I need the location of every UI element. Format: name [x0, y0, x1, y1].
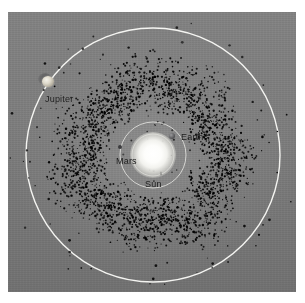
mars-planet-icon	[118, 145, 122, 149]
earth-planet-icon	[169, 133, 175, 139]
sun-label: Sun	[145, 179, 162, 189]
asteroid-belt-figure: Sun Earth Mars Jupiter	[0, 0, 305, 303]
diagram-panel: Sun Earth Mars Jupiter	[8, 12, 296, 292]
sun-glyph	[130, 132, 176, 178]
jupiter-planet-icon	[42, 76, 54, 87]
earth-label: Earth	[181, 132, 204, 142]
jupiter-label: Jupiter	[45, 94, 73, 104]
mars-label: Mars	[116, 156, 137, 166]
